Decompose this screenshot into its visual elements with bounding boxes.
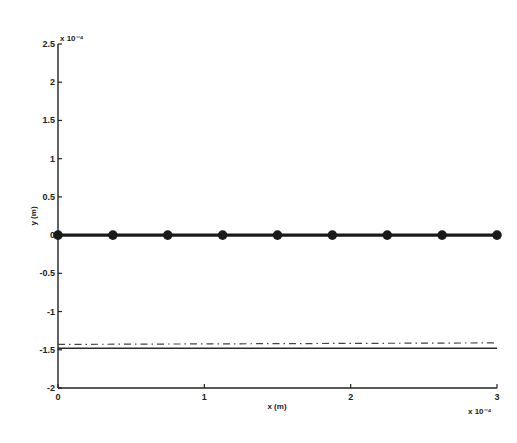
x-axis-label: x (m) — [267, 402, 286, 411]
y-tick-label: -1.5 — [39, 345, 55, 355]
x-tick-label: 2 — [348, 392, 353, 402]
y-tick-label: 1 — [50, 154, 55, 164]
y-axis-label: y (m) — [29, 206, 38, 225]
data-marker — [437, 230, 447, 240]
dash-dot-line — [58, 343, 497, 345]
y-scale-exponent: x 10⁻⁴ — [60, 34, 84, 43]
y-tick-label: 1.5 — [42, 115, 55, 125]
y-tick-label: -1 — [47, 307, 55, 317]
data-marker — [492, 230, 502, 240]
series-0 — [53, 230, 502, 240]
x-scale-exponent: x 10⁻⁴ — [468, 407, 492, 416]
x-tick-label: 0 — [55, 392, 60, 402]
series-1 — [58, 343, 497, 345]
data-marker — [108, 230, 118, 240]
data-marker — [218, 230, 228, 240]
data-marker — [382, 230, 392, 240]
y-tick-label: -2 — [47, 383, 55, 393]
data-marker — [273, 230, 283, 240]
y-tick-label: 2.5 — [42, 39, 55, 49]
chart: 2.521.510.50-0.5-1-1.5-20123 x (m) y (m)… — [0, 0, 517, 443]
y-tick-label: -0.5 — [39, 268, 55, 278]
data-marker — [328, 230, 338, 240]
data-marker — [53, 230, 63, 240]
x-tick-label: 3 — [494, 392, 499, 402]
data-marker — [163, 230, 173, 240]
x-tick-label: 1 — [202, 392, 207, 402]
series-layer — [53, 230, 502, 348]
y-tick-label: 2 — [50, 77, 55, 87]
y-tick-label: 0.5 — [42, 192, 55, 202]
